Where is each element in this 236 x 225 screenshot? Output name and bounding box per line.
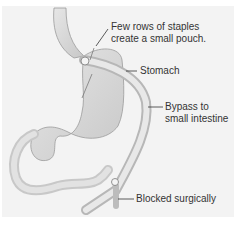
label-staples-line2: create a small pouch. xyxy=(111,33,206,45)
label-staples-line1: Few rows of staples xyxy=(111,21,199,33)
label-stomach: Stomach xyxy=(140,65,179,77)
label-blocked: Blocked surgically xyxy=(136,193,216,205)
label-bypass-line2: small intestine xyxy=(165,113,228,125)
label-bypass-line1: Bypass to xyxy=(165,101,209,113)
junction-lower xyxy=(112,179,119,186)
esophagus xyxy=(54,8,84,58)
junction-upper xyxy=(81,57,89,65)
leader-staples xyxy=(96,29,108,46)
diagram-frame: Few rows of staples create a small pouch… xyxy=(0,0,236,225)
